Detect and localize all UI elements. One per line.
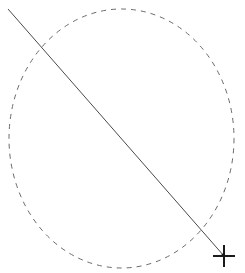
crosshair-cursor-icon: [213, 245, 235, 267]
canvas-drawing-layer: [0, 0, 245, 273]
drag-line: [8, 9, 224, 256]
drawing-canvas[interactable]: [0, 0, 245, 273]
